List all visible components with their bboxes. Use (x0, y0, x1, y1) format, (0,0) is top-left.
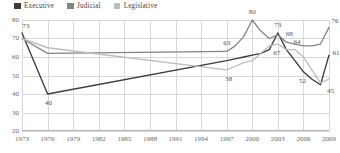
x-tick-label-1991: 1991 (169, 135, 183, 143)
point-label-executive-2009: 61 (333, 49, 340, 57)
point-label-judicial-2000: 80 (249, 8, 256, 16)
point-label-judicial-1997: 63 (223, 39, 230, 47)
point-label-legislative-2003: 67 (273, 49, 280, 57)
point-label-executive-1976: 40 (45, 99, 52, 107)
x-tick-label-1988: 1988 (143, 135, 157, 143)
legend-swatch-judicial (67, 3, 74, 10)
x-tick-label-1985: 1985 (117, 135, 131, 143)
y-tick-label-70: 70 (12, 34, 19, 42)
legend-swatch-legislative (114, 3, 121, 10)
series-line-judicial (22, 20, 329, 53)
gridline-y-20 (22, 131, 329, 132)
x-tick-label-2003: 2003 (271, 135, 285, 143)
point-label-executive-2008: 45 (327, 87, 334, 95)
legend-label-judicial: Judicial (77, 2, 101, 10)
y-tick-label-30: 30 (12, 109, 19, 117)
point-label-legislative-1997: 58 (225, 75, 232, 83)
point-label-judicial-2004: 68 (286, 30, 293, 38)
y-tick-label-20: 20 (12, 127, 19, 135)
series-line-legislative (22, 39, 329, 83)
legend-label-executive: Executive (24, 2, 54, 10)
x-tick-label-2000: 2000 (245, 135, 259, 143)
x-tick-label-1994: 1994 (194, 135, 208, 143)
y-tick-label-60: 60 (12, 53, 19, 61)
x-tick-label-2009: 2009 (322, 135, 336, 143)
plot-area: 20304050607080 1973197619791982198519881… (22, 20, 329, 131)
x-tick-label-1997: 1997 (220, 135, 234, 143)
legend-item-legislative[interactable]: Legislative (114, 2, 158, 10)
gridline-x-2009 (329, 20, 330, 131)
x-tick-label-1973: 1973 (15, 135, 29, 143)
chart-legend: ExecutiveJudicialLegislative (14, 2, 157, 10)
legend-item-judicial[interactable]: Judicial (67, 2, 101, 10)
legend-swatch-executive (14, 3, 21, 10)
point-label-legislative-2005: 64 (293, 38, 300, 46)
point-label-executive-2006: 52 (299, 77, 306, 85)
legend-label-legislative: Legislative (124, 2, 158, 10)
x-tick-label-2006: 2006 (296, 135, 310, 143)
x-tick-label-1979: 1979 (66, 135, 80, 143)
series-lines (22, 20, 329, 131)
point-label-executive-1973: 73 (23, 22, 30, 30)
x-tick-label-1976: 1976 (41, 135, 55, 143)
point-label-executive-2003: 73 (274, 21, 281, 29)
y-tick-label-40: 40 (12, 90, 19, 98)
x-tick-label-1982: 1982 (92, 135, 106, 143)
y-tick-label-50: 50 (12, 72, 19, 80)
y-tick-label-80: 80 (12, 16, 19, 24)
legend-item-executive[interactable]: Executive (14, 2, 54, 10)
point-label-judicial-2009: 76 (332, 17, 339, 25)
